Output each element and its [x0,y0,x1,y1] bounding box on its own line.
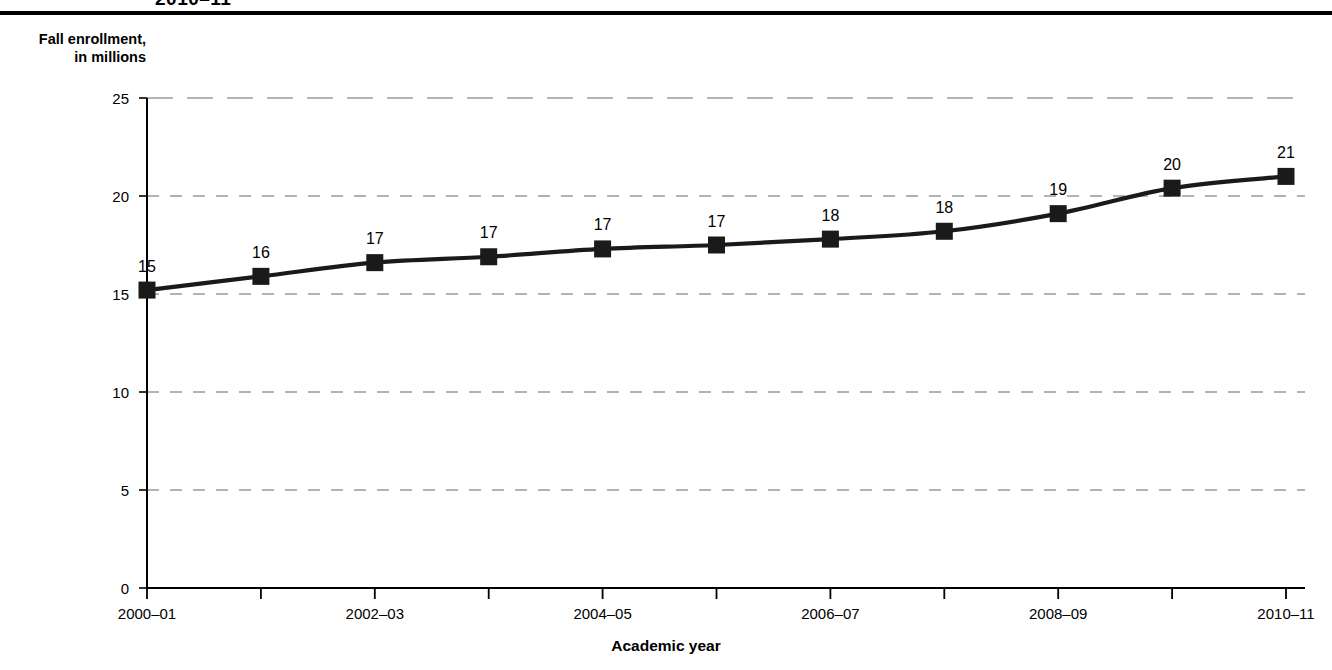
y-tick-label: 15 [89,286,129,303]
data-point-marker[interactable] [1278,168,1295,185]
data-point-marker[interactable] [936,223,953,240]
gridlines-group [147,98,1305,490]
y-tick-label: 20 [89,188,129,205]
x-tick-label: 2010–11 [1257,605,1314,622]
x-tick-label: 2006–07 [801,605,859,622]
series-group [147,176,1286,290]
y-tick-label: 5 [89,482,129,499]
data-point-label: 17 [366,230,384,248]
x-axis-title: Academic year [0,637,1332,655]
y-tick-label: 10 [89,384,129,401]
data-point-marker[interactable] [1164,180,1181,197]
series-line [147,176,1286,290]
y-tick-label: 25 [89,90,129,107]
chart-plot-area: 05101520252000–012002–032004–052006–0720… [0,0,1332,670]
chart-svg [0,0,1332,670]
data-point-marker[interactable] [366,254,383,271]
x-ticks-group [147,588,1286,599]
axis-lines-group [139,98,1305,588]
x-tick-label: 2002–03 [346,605,404,622]
y-tick-label: 0 [89,580,129,597]
data-point-marker[interactable] [252,268,269,285]
data-point-label: 17 [480,224,498,242]
x-tick-label: 2008–09 [1029,605,1087,622]
data-point-label: 17 [708,213,726,231]
data-point-label: 18 [821,207,839,225]
x-tick-label: 2004–05 [573,605,631,622]
data-point-label: 15 [138,258,156,276]
data-point-label: 16 [252,244,270,262]
data-point-label: 20 [1163,156,1181,174]
data-point-marker[interactable] [708,237,725,254]
data-point-marker[interactable] [822,231,839,248]
data-point-label: 17 [594,216,612,234]
x-tick-label: 2000–01 [118,605,176,622]
data-point-label: 18 [935,199,953,217]
data-point-marker[interactable] [1050,205,1067,222]
markers-group [139,168,1295,299]
data-point-label: 21 [1277,144,1295,162]
data-point-label: 19 [1049,181,1067,199]
data-point-marker[interactable] [139,282,156,299]
data-point-marker[interactable] [594,240,611,257]
data-point-marker[interactable] [480,248,497,265]
